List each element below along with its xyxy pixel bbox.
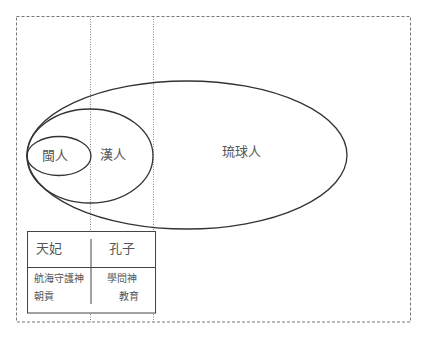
table-cell-tianfei-line1: 航海守護神 <box>34 274 84 284</box>
label-ryukyu: 琉球人 <box>222 145 261 158</box>
table-header-tianfei: 天妃 <box>36 242 62 255</box>
table-cell-confucius-line2: 教育 <box>119 292 139 302</box>
ellipse-ryukyu <box>27 81 347 229</box>
label-han: 漢人 <box>100 148 126 161</box>
table-header-confucius: 孔子 <box>109 242 135 255</box>
diagram-svg <box>0 0 423 338</box>
table-cell-confucius-line1: 學問神 <box>107 274 137 284</box>
diagram-canvas: 閩人 漢人 琉球人 天妃 孔子 航海守護神 朝貢 學問神 教育 <box>0 0 423 338</box>
label-min: 閩人 <box>42 149 68 162</box>
table-cell-tianfei-line2: 朝貢 <box>34 292 54 302</box>
